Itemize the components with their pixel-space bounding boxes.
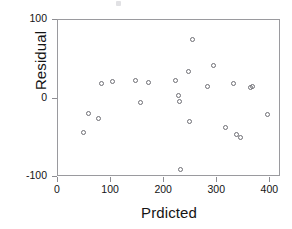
- x-tick-mark: [57, 177, 58, 182]
- plot-frame: [57, 19, 280, 176]
- x-tick-label: 200: [143, 183, 183, 195]
- data-point: [211, 63, 216, 68]
- data-point: [133, 78, 138, 83]
- x-tick-label: 300: [196, 183, 236, 195]
- x-tick-label: 100: [90, 183, 130, 195]
- x-tick-label: 400: [249, 183, 289, 195]
- scan-artifact: [116, 1, 121, 6]
- residual-scatter-plot: Residual Prdicted 1000-100 0100200300400: [0, 0, 292, 229]
- x-tick-mark: [110, 177, 111, 182]
- x-tick-mark: [216, 177, 217, 182]
- y-tick-label: 0: [5, 91, 47, 103]
- x-tick-mark: [269, 177, 270, 182]
- y-tick-label: 100: [5, 12, 47, 24]
- data-point: [99, 81, 104, 86]
- x-axis-title: Prdicted: [57, 204, 281, 221]
- data-point: [178, 167, 183, 172]
- data-point: [250, 84, 255, 89]
- y-tick-mark: [52, 19, 57, 20]
- x-tick-mark: [163, 177, 164, 182]
- data-point: [81, 130, 86, 135]
- y-tick-label: -100: [5, 169, 47, 181]
- x-tick-label: 0: [37, 183, 77, 195]
- data-point: [238, 135, 243, 140]
- data-point: [231, 81, 236, 86]
- y-tick-mark: [52, 98, 57, 99]
- data-point: [187, 119, 192, 124]
